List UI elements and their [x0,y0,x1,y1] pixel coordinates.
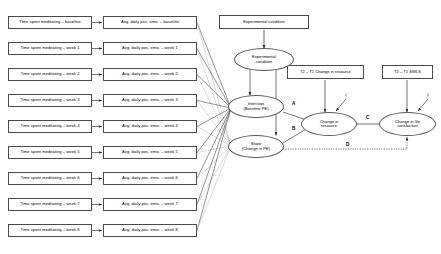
observed-box-positive-emotion-8: Avg. daily pos. emo. – week 8 [103,224,197,237]
disturbance-resource: ζ [345,92,347,97]
path-label-d: D [346,142,349,147]
observed-box-meditating-2: Time spent meditating – week 2 [8,68,92,81]
observed-box-positive-emotion-7: Avg. daily pos. emo. – week 7 [103,198,197,211]
observed-box-experimental-condition: Experimental condition [219,15,309,29]
path-label-b: B [292,126,295,131]
observed-box-meditating-0: Time spent meditating – baseline [8,16,92,29]
latent-intercept-line2: (Baseline PE) [243,107,268,111]
latent-change-in-life-satisfaction: Change in life satisfaction [379,112,436,136]
observed-box-meditating-5: Time spent meditating – week 5 [8,146,92,159]
latent-ec-line2: condition [252,60,276,64]
path-label-c: C [366,115,369,120]
latent-satisfaction-line2: satisfaction [395,124,420,128]
latent-resource-line2: resource [320,124,339,128]
path-label-a: A [292,101,295,106]
latent-slope: Slope (Change in PE) [228,135,284,158]
observed-box-positive-emotion-5: Avg. daily pos. emo. – week 5 [103,146,197,159]
observed-box-positive-emotion-1: Avg. daily pos. emo. – week 1 [103,42,197,55]
observed-box-swls: T2 – T1 SWLS [382,65,433,79]
disturbance-life-satisfaction: ζ [427,92,429,97]
observed-box-meditating-3: Time spent meditating – week 3 [8,94,92,107]
observed-box-positive-emotion-3: Avg. daily pos. emo. – week 3 [103,94,197,107]
observed-box-positive-emotion-6: Avg. daily pos. emo. – week 6 [103,172,197,185]
observed-box-meditating-8: Time spent meditating – week 8 [8,224,92,237]
observed-box-meditating-6: Time spent meditating – week 6 [8,172,92,185]
observed-box-positive-emotion-4: Avg. daily pos. emo. – week 4 [103,120,197,133]
observed-box-positive-emotion-2: Avg. daily pos. emo. – week 2 [103,68,197,81]
latent-slope-line2: (Change in PE) [242,147,270,151]
observed-box-change-in-resource: T2 – T1 Change in resource [287,65,364,79]
latent-change-in-resource: Change in resource [301,112,357,136]
latent-experimental-condition: Experimental condition [234,48,294,71]
sem-diagram: Experimental condition T2 – T1 Change in… [0,0,441,254]
observed-box-meditating-7: Time spent meditating – week 7 [8,198,92,211]
latent-intercept: Intercept (Baseline PE) [228,95,284,118]
observed-box-positive-emotion-0: Avg. daily pos. emo. – baseline [103,16,197,29]
observed-box-meditating-4: Time spent meditating – week 4 [8,120,92,133]
observed-box-meditating-1: Time spent meditating – week 1 [8,42,92,55]
